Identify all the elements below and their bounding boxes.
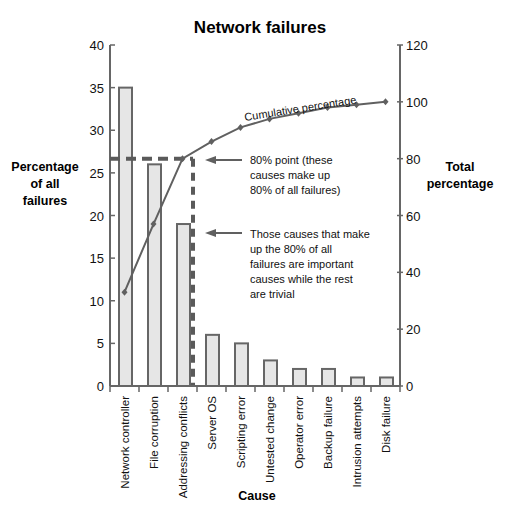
cumulative-point <box>209 138 215 145</box>
right-tick-label: 0 <box>406 379 413 394</box>
right-tick-label: 60 <box>406 209 420 224</box>
left-tick-label: 25 <box>90 166 104 181</box>
right-tick-label: 100 <box>406 95 428 110</box>
category-label: Server OS <box>206 396 218 450</box>
cumulative-point <box>238 124 244 131</box>
left-tick-label: 5 <box>97 336 104 351</box>
left-tick-label: 30 <box>90 123 104 138</box>
arrow-icon <box>205 156 216 164</box>
cumulative-label: Cumulative percentage <box>243 93 357 123</box>
right-y-axis: 020406080100120 <box>397 38 428 394</box>
category-label: Backup failure <box>322 396 334 469</box>
bar <box>148 164 161 386</box>
left-tick-label: 0 <box>97 379 104 394</box>
bar <box>235 343 248 386</box>
left-tick-label: 20 <box>90 209 104 224</box>
category-label: Untested change <box>264 396 276 483</box>
pareto-chart: Network failures 0510152025303540 020406… <box>0 0 511 524</box>
note-80-percent: 80% point (thesecauses make up80% of all… <box>250 154 341 196</box>
right-tick-label: 80 <box>406 152 420 167</box>
category-label: Operator error <box>293 396 305 469</box>
category-label: Disk failure <box>380 396 392 453</box>
category-label: Intrusion attempts <box>351 396 363 488</box>
bar <box>264 360 277 386</box>
right-tick-label: 40 <box>406 265 420 280</box>
category-label: Scripting error <box>235 396 247 468</box>
right-axis-label: Totalpercentage <box>427 160 494 191</box>
arrow-icon <box>205 229 216 237</box>
left-y-axis: 0510152025303540 <box>90 38 115 394</box>
bar <box>322 369 335 386</box>
left-tick-label: 10 <box>90 294 104 309</box>
chart-title: Network failures <box>194 18 326 37</box>
left-tick-label: 35 <box>90 81 104 96</box>
right-tick-label: 20 <box>406 322 420 337</box>
x-axis: Network controllerFile corruptionAddress… <box>110 386 400 498</box>
category-label: File corruption <box>148 396 160 469</box>
left-tick-label: 40 <box>90 38 104 53</box>
bar <box>177 224 190 386</box>
bar <box>380 377 393 386</box>
right-tick-label: 120 <box>406 38 428 53</box>
bar <box>351 377 364 386</box>
cumulative-point <box>383 98 389 105</box>
note-vital-few: Those causes that makeup the 80% of allf… <box>250 228 370 300</box>
bar <box>206 335 219 386</box>
x-axis-label: Cause <box>238 489 276 503</box>
bar <box>119 88 132 386</box>
category-label: Addressing conflicts <box>177 396 189 499</box>
bar <box>293 369 306 386</box>
left-axis-label: Percentageof allfailures <box>11 160 78 208</box>
category-label: Network controller <box>119 396 131 489</box>
left-tick-label: 15 <box>90 251 104 266</box>
annotations: Cumulative percentage 80% point (theseca… <box>205 93 370 300</box>
